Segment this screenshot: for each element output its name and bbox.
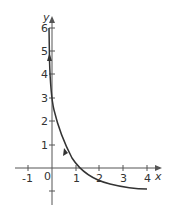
svg-text:3: 3 <box>41 92 48 105</box>
svg-text:5: 5 <box>41 45 48 58</box>
svg-text:1: 1 <box>73 172 80 185</box>
plot: -1 0 1 2 3 4 1 2 3 4 5 6 x y <box>0 0 176 211</box>
svg-text:2: 2 <box>41 115 48 128</box>
tick-labels: -1 0 1 2 3 4 1 2 3 4 5 6 x y <box>22 11 162 185</box>
svg-text:-1: -1 <box>22 172 33 185</box>
svg-text:3: 3 <box>120 172 127 185</box>
svg-text:4: 4 <box>41 68 48 81</box>
x-axis-label: x <box>154 170 162 183</box>
svg-text:2: 2 <box>96 172 103 185</box>
svg-text:1: 1 <box>41 139 48 152</box>
svg-text:4: 4 <box>144 172 151 185</box>
x-axis <box>15 165 162 171</box>
svg-text:0: 0 <box>44 170 51 183</box>
curve <box>49 28 147 189</box>
y-axis-label: y <box>42 11 50 24</box>
